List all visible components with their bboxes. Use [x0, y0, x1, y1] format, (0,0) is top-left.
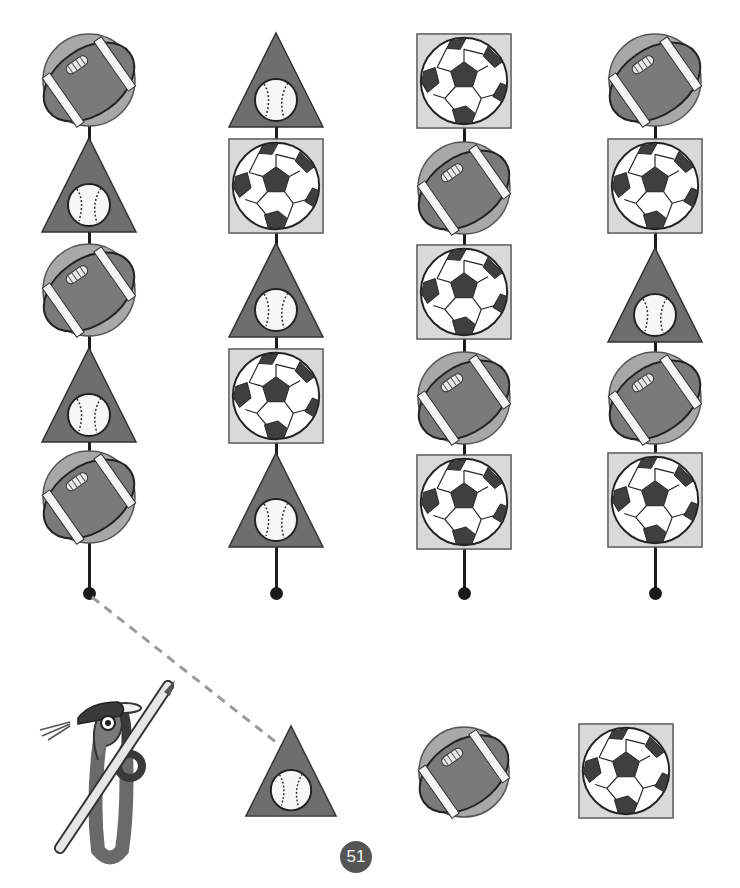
column-3 [409, 0, 519, 600]
football-icon [414, 348, 514, 448]
column-4-dot[interactable] [649, 587, 662, 600]
column-1-dot[interactable] [83, 587, 96, 600]
football-icon [39, 30, 139, 130]
column-2 [221, 0, 331, 600]
baseball-triangle-icon [226, 450, 326, 550]
soccer-square-icon [228, 348, 324, 444]
column-4 [600, 0, 710, 600]
soccer-square-icon [416, 244, 512, 340]
baseball-triangle-icon [39, 345, 139, 445]
column-1 [34, 0, 144, 600]
answer-choice-baseball-triangle[interactable] [241, 723, 341, 819]
football-icon [605, 348, 705, 448]
soccer-square-icon [416, 454, 512, 550]
column-2-dot[interactable] [270, 587, 283, 600]
answer-choice-football[interactable] [415, 723, 513, 821]
page-number-badge: 51 [340, 841, 372, 873]
soccer-square-icon [607, 452, 703, 548]
football-icon [605, 30, 705, 130]
baseball-triangle-icon [226, 240, 326, 340]
soccer-square-icon [228, 138, 324, 234]
soccer-square-icon [607, 138, 703, 234]
pencil-mascot-icon [30, 680, 175, 865]
answer-choice-soccer-square[interactable] [578, 723, 674, 819]
football-icon [414, 138, 514, 238]
baseball-triangle-icon [39, 135, 139, 235]
soccer-square-icon [416, 33, 512, 129]
column-3-dot[interactable] [458, 587, 471, 600]
football-icon [39, 240, 139, 340]
baseball-triangle-icon [226, 30, 326, 130]
baseball-triangle-icon [605, 245, 705, 345]
football-icon [39, 447, 139, 547]
